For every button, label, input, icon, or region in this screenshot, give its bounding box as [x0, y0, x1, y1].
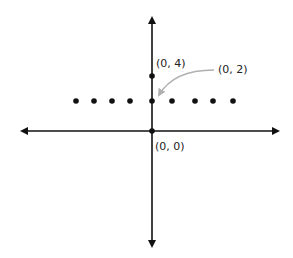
dot-row — [73, 98, 236, 104]
label-point-0-4: (0, 4) — [156, 57, 186, 70]
point-0-4 — [149, 73, 155, 79]
point — [127, 98, 133, 104]
label-origin: (0, 0) — [155, 140, 185, 153]
point-0-2 — [149, 98, 155, 104]
point — [210, 98, 216, 104]
point — [109, 98, 115, 104]
point — [73, 98, 79, 104]
coordinate-plane: (0, 4) (0, 2) (0, 0) — [0, 0, 293, 258]
point — [230, 98, 236, 104]
callout-arrow — [159, 70, 214, 95]
label-point-0-2: (0, 2) — [218, 63, 248, 76]
point — [169, 98, 175, 104]
point — [91, 98, 97, 104]
point — [192, 98, 198, 104]
point-origin — [149, 128, 155, 134]
